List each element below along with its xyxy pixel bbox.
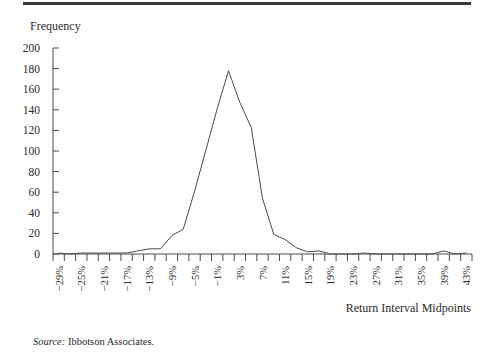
x-tick-label: 19% xyxy=(325,266,336,286)
x-tick-label: 11% xyxy=(280,266,291,285)
y-tick-label: 80 xyxy=(29,166,41,178)
x-tick-label: 35% xyxy=(416,266,427,286)
y-tick-label: 20 xyxy=(29,227,41,239)
x-tick-label: −5% xyxy=(190,266,201,286)
source-prefix: Source: xyxy=(33,336,65,347)
x-tick-label: −25% xyxy=(76,266,87,291)
x-tick-label: −1% xyxy=(212,266,223,286)
x-tick-label: 31% xyxy=(393,266,404,286)
x-tick-label: −17% xyxy=(122,266,133,291)
y-tick-label: 140 xyxy=(23,104,41,116)
x-tick-label: 39% xyxy=(439,266,450,286)
y-tick-label: 160 xyxy=(23,83,41,95)
y-tick-label: 180 xyxy=(23,63,41,75)
x-tick-label: 43% xyxy=(461,266,472,286)
source-text: Ibbotson Associates. xyxy=(65,336,154,347)
x-tick-label: −13% xyxy=(144,266,155,291)
y-tick-label: 200 xyxy=(23,42,41,54)
x-tick-label: 15% xyxy=(303,266,314,286)
x-tick-label: −9% xyxy=(167,266,178,286)
x-tick-label: 23% xyxy=(348,266,359,286)
x-axis: −29%−25%−21%−17%−13%−9%−5%−1%3%7%11%15%1… xyxy=(53,254,472,291)
x-tick-label: −29% xyxy=(54,266,65,291)
x-axis-title: Return Interval Midpoints xyxy=(346,301,471,316)
y-tick-label: 60 xyxy=(29,186,41,198)
source-note: Source: Ibbotson Associates. xyxy=(33,336,154,347)
x-tick-label: 7% xyxy=(258,266,269,280)
x-tick-label: 3% xyxy=(235,266,246,280)
y-tick-label: 120 xyxy=(23,124,41,136)
y-tick-label: 100 xyxy=(23,145,41,157)
x-tick-label: 27% xyxy=(371,266,382,286)
y-tick-label: 40 xyxy=(29,207,41,219)
y-tick-label: 0 xyxy=(34,248,40,260)
y-axis: 020406080100120140160180200 xyxy=(23,42,59,260)
x-tick-label: −21% xyxy=(99,266,110,291)
frequency-series-line xyxy=(59,71,467,254)
